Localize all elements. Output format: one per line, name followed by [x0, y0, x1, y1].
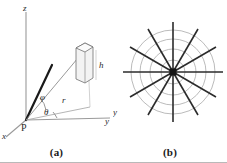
- origin-label: P: [21, 122, 27, 133]
- figure-container: z y x P r h φ θ: [0, 0, 227, 163]
- center-marker: [170, 69, 177, 76]
- panel-b-svg: y: [113, 0, 227, 140]
- y-axis-line: [26, 118, 110, 120]
- theta-angle-arc: [53, 112, 57, 118]
- z-axis-label: z: [22, 3, 27, 13]
- y-axis-label: y: [104, 116, 109, 126]
- caption-panel-a: (a): [0, 146, 113, 158]
- panel-a-svg: z y x P r h φ θ: [0, 0, 113, 140]
- panel-b-radial-pattern: y: [113, 0, 227, 140]
- radial-web-group: [123, 22, 223, 122]
- radius-label: r: [62, 95, 66, 105]
- height-label: h: [99, 60, 104, 70]
- phi-angle-label: φ: [40, 92, 45, 102]
- panel-a-spherical-coordinates: z y x P r h φ θ: [0, 0, 113, 140]
- volume-element-prism: [76, 43, 93, 83]
- theta-angle-label: θ: [44, 107, 49, 117]
- panel-b-y-axis-label: y: [113, 107, 117, 117]
- x-axis-label: x: [1, 131, 6, 140]
- caption-panel-b: (b): [113, 146, 227, 158]
